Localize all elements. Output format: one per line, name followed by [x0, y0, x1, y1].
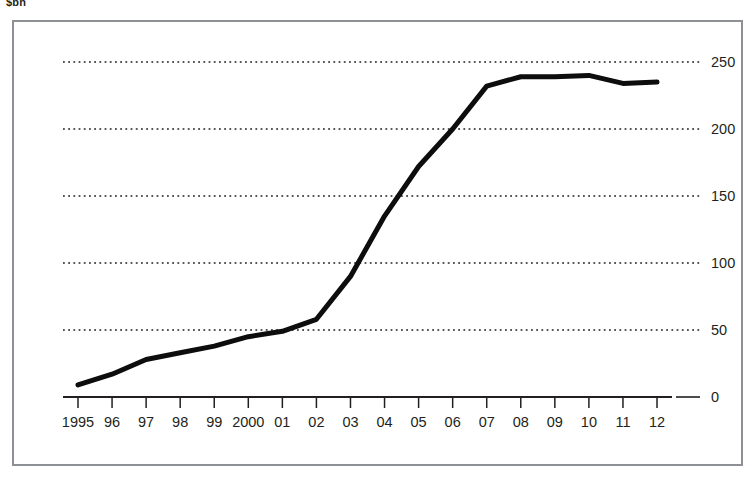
x-axis-tick-label: 1995: [62, 414, 94, 430]
gridline-group: [63, 62, 700, 397]
chart-plot-area: 050100150200250 199596979899200001020304…: [0, 0, 755, 484]
x-axis-tick-label: 04: [376, 414, 392, 430]
x-axis-tick-label: 2000: [232, 414, 264, 430]
x-axis-tick-label: 02: [308, 414, 324, 430]
x-axis-tick-label: 10: [581, 414, 597, 430]
x-axis-tick-label: 12: [649, 414, 665, 430]
x-axis-tick-label: 08: [513, 414, 529, 430]
x-axis-tick-label: 98: [172, 414, 188, 430]
x-axis-tick-label: 03: [342, 414, 358, 430]
x-axis-tick-label: 96: [104, 414, 120, 430]
y-axis-tick-label: 0: [711, 389, 719, 405]
y-axis-tick-label: 150: [711, 188, 735, 204]
x-axis-tick-group: 1995969798992000010203040506070809101112: [62, 397, 665, 430]
series-polyline: [78, 75, 657, 385]
x-axis-tick-label: 99: [206, 414, 222, 430]
y-axis-tick-label: 200: [711, 121, 735, 137]
y-axis-tick-label: 250: [711, 54, 735, 70]
data-series-line: [78, 75, 657, 385]
y-axis-tick-label: 50: [711, 322, 727, 338]
line-chart: 050100150200250 199596979899200001020304…: [0, 0, 755, 484]
y-axis-tick-group: 050100150200250: [711, 54, 735, 405]
x-axis-tick-label: 05: [411, 414, 427, 430]
x-axis-tick-label: 97: [138, 414, 154, 430]
x-axis-tick-label: 09: [547, 414, 563, 430]
x-axis-tick-label: 01: [274, 414, 290, 430]
x-axis-tick-label: 06: [445, 414, 461, 430]
y-axis-tick-label: 100: [711, 255, 735, 271]
x-axis-tick-label: 07: [479, 414, 495, 430]
x-axis-tick-label: 11: [615, 414, 630, 430]
